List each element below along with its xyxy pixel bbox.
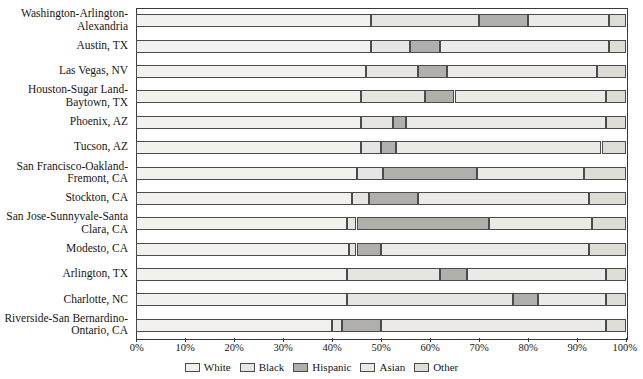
bar-segment-black [371,14,479,27]
bar-row [136,319,626,332]
legend-swatch-icon [414,363,429,372]
bar-segment-white [136,319,332,332]
legend-swatch-icon [293,363,308,372]
category-label-line: Baytown, TX [0,96,128,109]
bar-segment-other [606,90,626,103]
category-label-line: Ontario, CA [0,324,128,337]
bar-row [136,167,626,180]
bar-segment-asian [381,243,589,256]
bar-segment-other [584,167,626,180]
bar-segment-hispanic [383,167,476,180]
bar-segment-asian [477,167,585,180]
bar-segment-other [606,293,626,306]
bar-segment-asian [418,192,590,205]
category-label-line: Riverside-San Bernardino- [0,312,128,325]
legend-item-black[interactable]: Black [240,361,285,373]
bar-segment-white [136,243,349,256]
category-label-line: Houston-Sugar Land- [0,83,128,96]
bar-segment-asian [440,40,609,53]
category-label: San Francisco-Oakland-Fremont, CA [0,160,128,185]
bar-segment-asian [528,14,609,27]
category-label-line: Clara, CA [0,223,128,236]
bar-segment-hispanic [357,243,382,256]
bar-segment-other [606,116,626,129]
bar-segment-hispanic [479,14,528,27]
bar-segment-white [136,14,371,27]
bar-segment-black [349,243,356,256]
bar-segment-asian [396,141,602,154]
bar-segment-asian [489,217,592,230]
category-label-line: Stockton, CA [0,191,128,204]
legend-label: Black [259,361,285,373]
x-axis-tick-label: 20% [224,342,243,353]
bar-segment-hispanic [513,293,538,306]
bar-segment-black [347,268,440,281]
bar-segment-other [606,268,626,281]
bar-row [136,90,626,103]
bar-segment-white [136,116,361,129]
stacked-bar-chart: Washington-Arlington-AlexandriaAustin, T… [0,0,643,379]
category-label-line: Austin, TX [0,39,128,52]
x-axis-tick-label: 40% [322,342,341,353]
category-label: Riverside-San Bernardino-Ontario, CA [0,312,128,337]
legend-item-other[interactable]: Other [414,361,458,373]
bar-segment-other [609,14,626,27]
bar-segment-asian [538,293,607,306]
bar-segment-asian [455,90,607,103]
bar-segment-hispanic [418,65,447,78]
x-axis-tick-label: 100% [613,342,638,353]
category-label-line: Charlotte, NC [0,293,128,306]
bar-segment-other [597,65,626,78]
x-axis-tick-label: 80% [518,342,537,353]
category-label-line: Tucson, AZ [0,140,128,153]
bar-segment-hispanic [342,319,381,332]
bar-segment-hispanic [357,217,489,230]
x-axis-tick-label: 70% [469,342,488,353]
bar-segment-white [136,293,347,306]
x-axis-tick-label: 50% [371,342,390,353]
bar-segment-black [366,65,417,78]
bar-segment-white [136,90,361,103]
legend-item-asian[interactable]: Asian [360,361,405,373]
category-label: San Jose-Sunnyvale-SantaClara, CA [0,210,128,235]
bar-segment-asian [467,268,607,281]
bar-segment-black [361,116,393,129]
bar-segment-black [347,293,514,306]
category-label-line: Washington-Arlington- [0,7,128,20]
bar-segment-black [332,319,342,332]
bar-segment-white [136,40,371,53]
category-label: Charlotte, NC [0,293,128,306]
bar-row [136,141,626,154]
category-label: Austin, TX [0,39,128,52]
category-label: Stockton, CA [0,191,128,204]
legend-item-white[interactable]: White [185,361,231,373]
bar-segment-hispanic [393,116,405,129]
legend-swatch-icon [360,363,375,372]
bar-row [136,116,626,129]
bar-segment-asian [406,116,607,129]
category-label-line: Fremont, CA [0,172,128,185]
category-label: Las Vegas, NV [0,64,128,77]
legend-label: Asian [379,361,405,373]
legend-item-hispanic[interactable]: Hispanic [293,361,351,373]
bar-row [136,268,626,281]
bar-segment-black [361,90,425,103]
legend-swatch-icon [240,363,255,372]
bar-segment-other [589,243,626,256]
bar-segment-white [136,167,357,180]
bar-segment-other [589,192,626,205]
bar-segment-other [606,319,626,332]
bar-segment-black [347,217,357,230]
category-label-line: Alexandria [0,20,128,33]
bar-row [136,65,626,78]
bar-row [136,243,626,256]
x-axis-tick-label: 10% [175,342,194,353]
bar-segment-other [592,217,626,230]
bar-segment-white [136,65,366,78]
category-label-line: San Francisco-Oakland- [0,160,128,173]
legend-label: Other [433,361,458,373]
bar-segment-other [602,141,627,154]
category-label: Arlington, TX [0,267,128,280]
bar-segment-black [371,40,410,53]
x-axis-tick-label: 30% [273,342,292,353]
